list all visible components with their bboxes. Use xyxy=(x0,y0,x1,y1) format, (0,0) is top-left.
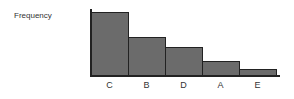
x-tick-label: B xyxy=(128,80,165,90)
x-tick-label: E xyxy=(239,80,276,90)
bar-c xyxy=(91,12,129,76)
bar-d xyxy=(165,47,203,76)
x-tick-label: A xyxy=(202,80,239,90)
x-tick-label: D xyxy=(165,80,202,90)
bar-e xyxy=(239,69,277,76)
bar-a xyxy=(202,61,240,76)
bar-b xyxy=(128,37,166,76)
x-tick-label: C xyxy=(91,80,128,90)
y-axis-label: Frequency xyxy=(14,11,52,20)
